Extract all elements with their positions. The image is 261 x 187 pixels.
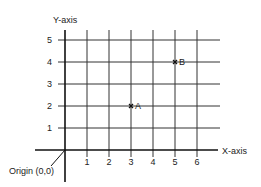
origin-label: Origin (0,0) bbox=[9, 166, 54, 176]
x-tick-label: 5 bbox=[172, 157, 177, 167]
y-tick-label: 3 bbox=[47, 79, 52, 89]
y-tick-label: 4 bbox=[47, 57, 52, 67]
origin-pointer-line bbox=[51, 150, 65, 166]
x-tick-label: 6 bbox=[194, 157, 199, 167]
point-label: A bbox=[135, 101, 141, 111]
y-tick-label: 5 bbox=[47, 35, 52, 45]
y-tick-label: 1 bbox=[47, 123, 52, 133]
x-tick-label: 1 bbox=[84, 157, 89, 167]
x-tick-label: 4 bbox=[150, 157, 155, 167]
y-tick-label: 2 bbox=[47, 101, 52, 111]
x-axis-label: X-axis bbox=[222, 146, 248, 156]
x-tick-label: 3 bbox=[128, 157, 133, 167]
point-label: B bbox=[179, 57, 185, 67]
x-tick-label: 2 bbox=[106, 157, 111, 167]
y-axis-label: Y-axis bbox=[53, 15, 78, 25]
coordinate-chart: 12345612345Y-axisX-axisOrigin (0,0)AB bbox=[0, 0, 261, 187]
